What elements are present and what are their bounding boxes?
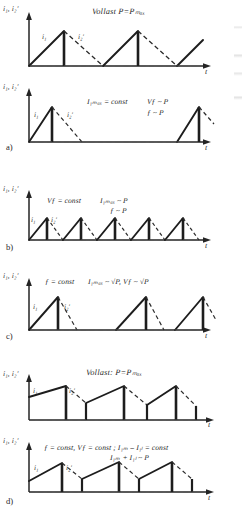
condition-line-2: I₁ₘₐₓ ~ √P, Vƒ ~ √P [88, 278, 149, 285]
curve-label-i2: i₂′ [67, 112, 73, 119]
y-axis-label: i₁, i₂′ [3, 6, 19, 13]
x-axis-label: t [205, 332, 207, 340]
curve-label-i2: i₂′ [51, 217, 57, 224]
figure-page: i₁, i₂′ Vollast P=Pₘₐₓ i₁ i₂′ t i₁, i₂′ … [0, 0, 242, 511]
y-axis-label: i₁, i₂′ [3, 186, 19, 193]
x-axis-label: t [205, 68, 207, 76]
curve-label-i2: i₂′ [69, 388, 75, 395]
y-axis-label: i₁, i₂′ [3, 84, 19, 91]
panel-c: i₁, i₂′ ƒ = const I₁ₘₐₓ ~ √P, Vƒ ~ √P i₁… [0, 268, 242, 346]
x-axis-label: t [205, 242, 207, 250]
condition-line-1: Vƒ = const [47, 197, 81, 204]
curve-label-i1: i₁ [42, 34, 47, 41]
condition-line-3: ƒ ~ P [110, 207, 127, 214]
condition-line-1: ƒ = const [45, 278, 75, 285]
curve-label-i1: i₁ [31, 217, 36, 224]
panel-a: i₁, i₂′ I₁ₘₐₓ = const Vƒ ~ P ƒ ~ P i₁ i₂… [0, 80, 242, 160]
condition-line-2: I₁ₘ + I₁ₗ ~ P [110, 454, 149, 461]
condition-line-3: ƒ ~ P [147, 109, 164, 116]
condition-line-1: I₁ₘₐₓ = const [87, 98, 128, 105]
curve-label-i2: i₂′ [78, 34, 84, 41]
x-axis-label: t [205, 144, 207, 152]
curve-label-i1: i₁ [33, 388, 38, 395]
condition-line-2: I₁ₘₐₓ ~ P [100, 197, 128, 204]
y-axis-label: i₁, i₂′ [3, 371, 19, 378]
x-axis-label: t [208, 494, 210, 502]
condition-line-1: ƒ = const, Vƒ = const ; I₁ₘ – I₁ₗ = cons… [44, 444, 168, 451]
curve-label-i2: i₂′ [64, 304, 70, 311]
curve-label-i1: i₁ [33, 304, 38, 311]
panel-letter-d: d) [6, 496, 13, 506]
curve-label-i2: i₂′ [66, 465, 72, 472]
panel-letter-b: b) [6, 242, 13, 252]
panel-vollast-top: i₁, i₂′ Vollast P=Pₘₐₓ i₁ i₂′ t [0, 0, 242, 78]
y-axis-label: i₁, i₂′ [3, 273, 19, 280]
panel-d: i₁, i₂′ ƒ = const, Vƒ = const ; I₁ₘ – I₁… [0, 434, 242, 511]
panel-title: Vollast P=Pₘₐₓ [92, 8, 145, 16]
condition-line-2: Vƒ ~ P [147, 98, 169, 105]
panel-vollast-continuous: i₁, i₂′ Vollast: P=Pₘₐₓ i₁ i₂′ t [0, 362, 242, 434]
curve-label-i1: i₁ [34, 465, 39, 472]
panel-letter-a: a) [6, 142, 13, 152]
panel-letter-c: c) [6, 331, 13, 341]
curve-label-i1: i₁ [34, 112, 39, 119]
panel-title: Vollast: P=Pₘₐₓ [86, 369, 142, 377]
y-axis-label: i₁, i₂′ [3, 438, 19, 445]
panel-b: i₁, i₂′ Vƒ = const I₁ₘₐₓ ~ P ƒ ~ P i₁ i₂… [0, 182, 242, 260]
x-axis-label: t [208, 421, 210, 429]
